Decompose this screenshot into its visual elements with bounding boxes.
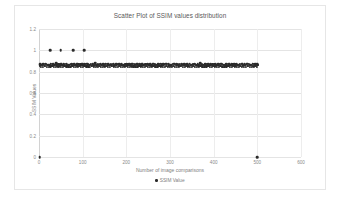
gridline-x	[126, 29, 127, 157]
chart-title: Scatter Plot of SSIM values distribution	[15, 12, 325, 19]
x-axis-title: Number of image comparisons	[39, 167, 301, 173]
scatter-point	[39, 156, 42, 159]
x-tick-label: 0	[38, 160, 41, 165]
scatter-point	[256, 156, 259, 159]
gridline-x	[170, 29, 171, 157]
legend-label: SSIM Value	[160, 178, 185, 183]
chart-container: Scatter Plot of SSIM values distribution…	[14, 5, 326, 190]
y-tick-label: 0.2	[30, 133, 36, 138]
y-tick-label: 0.8	[30, 69, 36, 74]
x-tick-label: 200	[122, 160, 130, 165]
gridline-y	[39, 157, 301, 158]
plot-area: 00.20.40.60.811.2 0100200300400500600	[39, 29, 301, 157]
gridline-x	[257, 29, 258, 157]
gridline-x	[301, 29, 302, 157]
y-tick-label: 0.4	[30, 112, 36, 117]
x-tick-label: 400	[210, 160, 218, 165]
scatter-point	[83, 49, 86, 52]
chart-legend: SSIM Value	[15, 178, 325, 183]
x-tick-label: 100	[79, 160, 87, 165]
x-tick-label: 500	[253, 160, 261, 165]
legend-marker-icon	[155, 179, 157, 181]
scatter-point	[72, 49, 75, 52]
x-tick-label: 300	[166, 160, 174, 165]
gridline-x	[214, 29, 215, 157]
y-tick-label: 0.6	[30, 91, 36, 96]
x-tick-label: 600	[297, 160, 305, 165]
y-tick-label: 1	[33, 48, 36, 53]
scatter-point	[256, 63, 259, 66]
y-tick-label: 0	[33, 155, 36, 160]
y-axis-title: SSIM Values	[31, 83, 37, 112]
scatter-point	[49, 49, 52, 52]
scatter-point	[60, 49, 63, 52]
y-tick-label: 1.2	[30, 27, 36, 32]
